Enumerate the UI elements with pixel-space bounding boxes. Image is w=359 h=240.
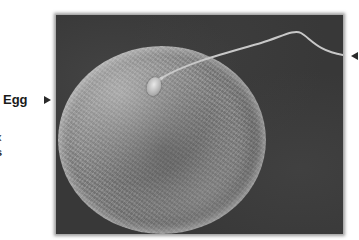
sperm-tail: [56, 15, 343, 234]
egg-pointer-arrow-icon: [44, 96, 51, 104]
micrograph-photo: [56, 15, 343, 234]
sperm-pointer-arrow-icon: [351, 52, 358, 60]
cropped-label-line-2: s: [0, 145, 2, 159]
egg-label: Egg: [3, 92, 28, 108]
cropped-label-line-1: x: [0, 130, 2, 144]
figure: Egg x s: [0, 0, 359, 240]
